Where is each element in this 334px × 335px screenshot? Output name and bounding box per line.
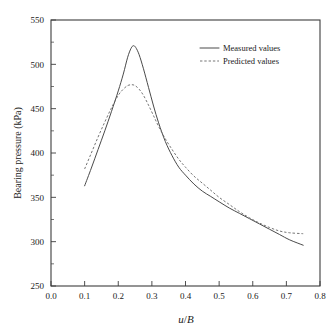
x-axis-tick-labels: 0.00.10.20.30.40.50.60.70.8 <box>45 291 326 301</box>
x-tick-label-0.2: 0.2 <box>113 291 124 301</box>
y-tick-label-350: 350 <box>31 193 45 203</box>
y-axis-title: Bearing pressure (kPa) <box>12 107 24 199</box>
x-tick-label-0.6: 0.6 <box>247 291 259 301</box>
y-tick-label-450: 450 <box>31 104 45 114</box>
x-tick-label-0.1: 0.1 <box>79 291 90 301</box>
x-tick-label-0.3: 0.3 <box>146 291 158 301</box>
y-tick-label-500: 500 <box>31 60 45 70</box>
y-tick-label-400: 400 <box>31 148 45 158</box>
x-tick-label-0.8: 0.8 <box>314 291 326 301</box>
x-axis-title: u/B <box>178 313 194 325</box>
figure-container: 250300350400450500550 0.00.10.20.30.40.5… <box>0 0 334 335</box>
x-tick-label-0.4: 0.4 <box>180 291 192 301</box>
x-tick-label-0.0: 0.0 <box>45 291 57 301</box>
x-tick-label-0.5: 0.5 <box>214 291 226 301</box>
y-tick-label-550: 550 <box>31 15 45 25</box>
legend-label-2: Predicted values <box>223 56 279 66</box>
y-tick-label-300: 300 <box>31 237 45 247</box>
legend-label-1: Measured values <box>223 43 280 53</box>
x-tick-label-0.7: 0.7 <box>281 291 293 301</box>
chart-background <box>0 0 334 335</box>
bearing-pressure-line-chart: 250300350400450500550 0.00.10.20.30.40.5… <box>0 0 334 335</box>
y-tick-label-250: 250 <box>31 281 45 291</box>
x-axis-title-b: B <box>187 313 194 325</box>
